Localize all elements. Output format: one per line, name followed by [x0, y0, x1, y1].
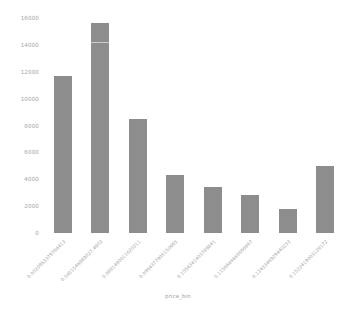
- x-tick-label: 0.1054341403789841: [176, 239, 216, 279]
- x-tick-label: 0.1243346929440233: [251, 239, 291, 279]
- y-tick-label: 4000: [24, 176, 39, 182]
- bar: [91, 23, 109, 233]
- x-tick-label: 0.0964377905150985: [138, 239, 178, 279]
- bar: [241, 195, 259, 233]
- y-tick-label: 14000: [21, 42, 39, 48]
- bar: [204, 187, 222, 233]
- x-tick-label: 0.0881490011620311: [101, 239, 141, 279]
- y-tick-label: 6000: [24, 149, 39, 155]
- bar-chart-figure: 0200040006000800010000120001400016000 0.…: [0, 0, 356, 316]
- x-tick-label: 0.1523419003128172: [288, 239, 328, 279]
- x-axis-title: price_bin: [0, 293, 356, 299]
- y-tick-label: 12000: [21, 69, 39, 75]
- bar: [129, 119, 147, 233]
- bar: [316, 166, 334, 233]
- y-tick-label: 8000: [24, 123, 39, 129]
- x-axis-ticklabels: 0.00209833797864130.0451546969027.49030.…: [0, 233, 356, 293]
- bar-seam: [91, 42, 109, 43]
- bar: [279, 209, 297, 233]
- x-tick-label: 0.0451546969027.4903: [60, 239, 104, 283]
- x-tick-label: 0.1156666666666667: [213, 239, 253, 279]
- plot-area: [44, 18, 344, 233]
- x-tick-label: 0.0020983379786413: [26, 239, 66, 279]
- bar: [54, 76, 72, 233]
- y-tick-label: 10000: [21, 96, 39, 102]
- bar: [166, 175, 184, 233]
- y-tick-label: 16000: [21, 15, 39, 21]
- y-tick-label: 2000: [24, 203, 39, 209]
